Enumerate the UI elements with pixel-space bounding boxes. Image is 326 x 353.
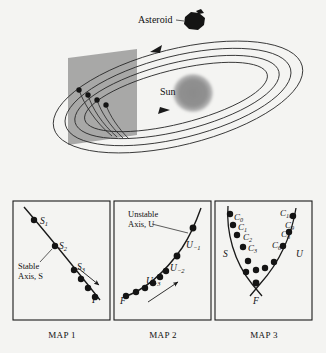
map1-axis-label: StableAxis, S — [18, 262, 43, 281]
map2-fixed-point-label: F — [120, 296, 126, 306]
map2-point-label-u1: U−1 — [186, 240, 200, 251]
map3-caption: MAP 3 — [214, 330, 314, 340]
map3-point-label-c0: C0 — [234, 212, 243, 223]
asteroid-label: Asteroid — [138, 14, 172, 25]
map2-caption: MAP 2 — [113, 330, 213, 340]
map2-axis-label: UnstableAxis, U — [128, 210, 158, 229]
map1-point-label-s2: S2 — [59, 241, 67, 252]
map3-unstable-branch-label: U — [296, 249, 303, 259]
map2-point-label-u3: U−3 — [146, 276, 160, 287]
paper-background — [0, 0, 326, 353]
figure-canvas — [0, 0, 326, 353]
map2-point-label-u2: U−2 — [170, 263, 184, 274]
map3-stable-branch-label: S — [223, 249, 228, 259]
map3-point-label-c1: C1 — [238, 222, 247, 233]
map1-point-label-s3: S3 — [77, 262, 85, 273]
map3-point-label-c6: C6 — [272, 240, 281, 251]
map3-fixed-point-label: F — [253, 296, 259, 306]
map1-fixed-point-label: F — [92, 295, 98, 305]
map1-point-label-s1: S1 — [40, 216, 48, 227]
sun-disk — [171, 72, 215, 114]
map3-point-label-c9: C9 — [285, 220, 294, 231]
map3-point-label-c8: C8 — [281, 229, 290, 240]
sun-label: Sun — [160, 86, 176, 97]
map3-point-label-c10: C10 — [280, 208, 292, 219]
map3-point-label-c3: C3 — [248, 243, 257, 254]
map1-caption: MAP 1 — [12, 330, 112, 340]
map3-point-label-c2: C2 — [243, 232, 252, 243]
